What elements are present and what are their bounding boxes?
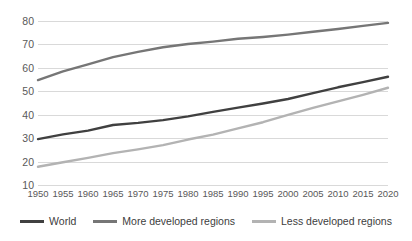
legend-item[interactable]: World xyxy=(20,215,76,227)
gridline xyxy=(38,21,388,22)
y-axis: 1020304050607080 xyxy=(4,0,34,241)
y-axis-tick-label: 60 xyxy=(8,63,34,73)
gridline xyxy=(38,91,388,92)
x-axis-tick-label: 1995 xyxy=(252,188,273,199)
x-axis-tick-label: 1970 xyxy=(127,188,148,199)
x-axis-tick-label: 2005 xyxy=(302,188,323,199)
legend-item[interactable]: Less developed regions xyxy=(252,215,392,227)
legend-item[interactable]: More developed regions xyxy=(93,215,235,227)
gridline xyxy=(38,138,388,139)
y-axis-tick-label: 40 xyxy=(8,110,34,120)
x-axis-tick-label: 1985 xyxy=(202,188,223,199)
y-axis-tick-label: 70 xyxy=(8,39,34,49)
x-axis-tick-label: 1965 xyxy=(102,188,123,199)
x-axis-tick-label: 2015 xyxy=(352,188,373,199)
x-axis-tick-label: 1960 xyxy=(77,188,98,199)
gridline xyxy=(38,44,388,45)
x-axis: 1950195519601965197019751980198519901995… xyxy=(0,188,412,204)
legend-swatch-icon xyxy=(20,220,44,223)
chart-legend: WorldMore developed regionsLess develope… xyxy=(0,210,412,232)
x-axis-tick-label: 2010 xyxy=(327,188,348,199)
gridline xyxy=(38,115,388,116)
x-axis-tick-label: 2020 xyxy=(377,188,398,199)
x-axis-tick-label: 1975 xyxy=(152,188,173,199)
x-axis-tick-label: 2000 xyxy=(277,188,298,199)
y-axis-tick-label: 20 xyxy=(8,157,34,167)
y-axis-tick-label: 80 xyxy=(8,16,34,26)
legend-label: More developed regions xyxy=(122,215,235,227)
y-axis-tick-label: 30 xyxy=(8,133,34,143)
legend-swatch-icon xyxy=(252,220,276,223)
gridline xyxy=(38,185,388,186)
legend-label: Less developed regions xyxy=(281,215,392,227)
gridline xyxy=(38,68,388,69)
gridline xyxy=(38,162,388,163)
y-axis-tick-label: 50 xyxy=(8,86,34,96)
x-axis-tick-label: 1980 xyxy=(177,188,198,199)
x-axis-tick-label: 1990 xyxy=(227,188,248,199)
x-axis-tick-label: 1955 xyxy=(52,188,73,199)
x-axis-tick-label: 1950 xyxy=(27,188,48,199)
plot-area xyxy=(38,21,388,185)
legend-label: World xyxy=(49,215,76,227)
legend-swatch-icon xyxy=(93,220,117,223)
line-chart: 1020304050607080 19501955196019651970197… xyxy=(0,0,412,241)
